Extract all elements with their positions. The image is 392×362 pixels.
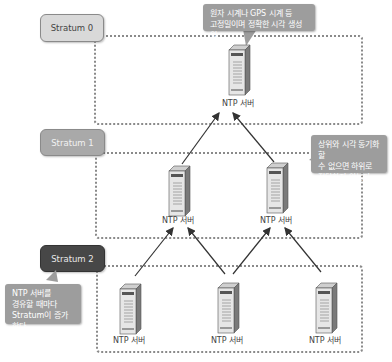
- ntp-server-label: NTP 서버: [295, 334, 355, 345]
- ntp-server-label: NTP 서버: [148, 214, 208, 225]
- ntp-server-icon: [263, 162, 289, 214]
- stratum-2-callout: NTP 서버를 경유할 때마다 Stratum이 증가한다: [5, 284, 81, 324]
- ntp-server-icon: [116, 283, 142, 335]
- ntp-server-icon: [214, 282, 240, 334]
- ntp-server-label: NTP 서버: [246, 214, 306, 225]
- ntp-server-label: NTP 서버: [197, 334, 257, 345]
- ntp-server-icon: [165, 165, 191, 217]
- stratum-0-callout: 원자 시계나 GPS 시계 등 고정밀이며 정확한 시각 생성원: [203, 4, 315, 31]
- ntp-server-icon: [312, 282, 338, 334]
- stratum-1-callout: 상위와 시각 동기화할 수 없으면 하위로 전달하지 않는다: [311, 135, 387, 173]
- ntp-server-label: NTP 서버: [99, 334, 159, 345]
- ntp-server-icon: [225, 44, 251, 96]
- ntp-server-label: NTP 서버: [208, 97, 268, 108]
